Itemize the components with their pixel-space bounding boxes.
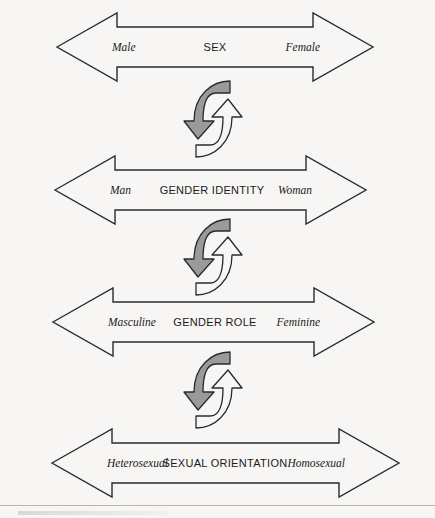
label-sexual-orientation-left: Heterosexual xyxy=(106,457,168,469)
label-sex-left: Male xyxy=(111,41,136,53)
page-rule xyxy=(0,505,435,506)
label-gender-role-left: Masculine xyxy=(107,316,156,328)
cycle-arrows-icon-2 xyxy=(184,219,242,295)
label-sexual-orientation-right: Homosexual xyxy=(287,457,346,469)
continuum-gender-identity: Man GENDER IDENTITY Woman xyxy=(55,156,366,224)
label-gender-role-right: Feminine xyxy=(276,316,320,328)
figure-canvas: Male SEX Female Man GENDER IDENTITY Woma… xyxy=(0,0,435,518)
label-gender-identity-right: Woman xyxy=(278,184,312,196)
continuum-gender-role: Masculine GENDER ROLE Feminine xyxy=(53,288,374,356)
cycle-arrows-icon-1 xyxy=(184,81,242,157)
label-sex-center: SEX xyxy=(204,41,227,53)
label-sex-right: Female xyxy=(285,41,320,53)
cycle-arrows-icon-3 xyxy=(184,352,242,428)
continuum-sex: Male SEX Female xyxy=(57,13,373,81)
label-gender-role-center: GENDER ROLE xyxy=(173,316,256,328)
continua-diagram: Male SEX Female Man GENDER IDENTITY Woma… xyxy=(0,0,435,518)
label-gender-identity-left: Man xyxy=(109,184,131,196)
continuum-sexual-orientation: Heterosexual SEXUAL ORIENTATION Homosexu… xyxy=(52,429,399,497)
label-sexual-orientation-center: SEXUAL ORIENTATION xyxy=(163,457,288,469)
label-gender-identity-center: GENDER IDENTITY xyxy=(160,184,265,196)
page-smudge xyxy=(18,511,168,515)
